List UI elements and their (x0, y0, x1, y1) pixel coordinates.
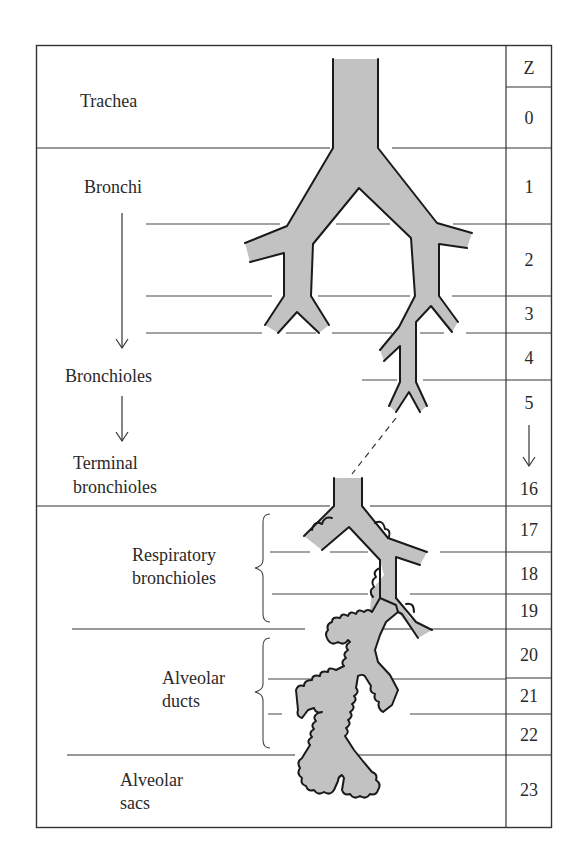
arrow-down-icon (116, 213, 128, 348)
label-respiratory-line1: Respiratory (132, 545, 216, 565)
z-value: 0 (525, 108, 534, 128)
z-value: 4 (525, 348, 534, 368)
z-value: 3 (525, 304, 534, 324)
z-value: 21 (520, 686, 538, 706)
label-ducts-line2: ducts (162, 691, 200, 711)
label-terminal-line2: bronchioles (73, 477, 157, 497)
z-value: 19 (520, 601, 538, 621)
trachea-bronchi-tree (245, 59, 472, 412)
label-sacs-line1: Alveolar (120, 770, 183, 790)
label-bronchi: Bronchi (84, 177, 142, 197)
zone-labels: Trachea Bronchi Bronchioles Terminal bro… (65, 91, 225, 813)
airway-generation-diagram: Trachea Bronchi Bronchioles Terminal bro… (0, 0, 580, 866)
z-value: 5 (525, 393, 534, 413)
arrow-down-icon (116, 396, 128, 441)
z-header: Z (524, 58, 535, 78)
label-trachea: Trachea (80, 91, 137, 111)
z-value: 16 (520, 479, 538, 499)
z-value: 23 (520, 780, 538, 800)
label-respiratory-line2: bronchioles (132, 568, 216, 588)
table-frame (37, 45, 552, 828)
skipped-generations-dashed-line (352, 418, 396, 474)
alveolar-duct-tree (296, 598, 398, 798)
z-value: 2 (525, 250, 534, 270)
respiratory-brace (255, 514, 270, 622)
z-value: 20 (520, 645, 538, 665)
progression-arrows (116, 213, 535, 466)
label-terminal-line1: Terminal (73, 453, 138, 473)
outer-frame (37, 46, 552, 828)
ducts-brace (255, 638, 270, 748)
z-value: 22 (520, 725, 538, 745)
z-value: 1 (525, 177, 534, 197)
curly-braces (255, 514, 270, 748)
z-value: 17 (520, 520, 538, 540)
label-ducts-line1: Alveolar (162, 668, 225, 688)
z-value: 18 (520, 564, 538, 584)
label-sacs-line2: sacs (120, 793, 150, 813)
label-bronchioles: Bronchioles (65, 366, 152, 386)
z-skip-arrow-down-icon (523, 425, 535, 466)
generation-dividers (146, 224, 506, 714)
